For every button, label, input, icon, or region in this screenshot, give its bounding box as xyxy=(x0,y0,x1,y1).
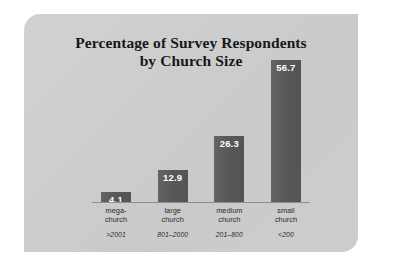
category-range-medium-church: 201–800 xyxy=(205,231,253,239)
category-name-line-1-large-church: large xyxy=(149,206,197,215)
bar-slot-mega-church: 4.1 xyxy=(92,54,140,202)
category-name-line-2-small-church: church xyxy=(262,215,310,224)
figure-card: Percentage of Survey Respondents by Chur… xyxy=(24,14,358,252)
category-name-line-1-small-church: small xyxy=(262,206,310,215)
category-range-large-church: 801–2000 xyxy=(149,231,197,239)
category-name-line-1-medium-church: medium xyxy=(205,206,253,215)
bar-value-small-church: 56.7 xyxy=(276,60,295,73)
bar-value-large-church: 12.9 xyxy=(163,170,182,183)
bar-slot-medium-church: 26.3 xyxy=(205,54,253,202)
category-label-small-church: small church <200 xyxy=(262,206,310,239)
category-label-mega-church: mega- church >2001 xyxy=(92,206,140,239)
category-label-large-church: large church 801–2000 xyxy=(149,206,197,239)
bar-series: 4.1 12.9 26.3 56.7 xyxy=(92,54,310,202)
category-range-mega-church: >2001 xyxy=(92,231,140,239)
category-label-medium-church: medium church 201–800 xyxy=(205,206,253,239)
bar-value-medium-church: 26.3 xyxy=(220,136,239,149)
category-name-line-2-large-church: church xyxy=(149,215,197,224)
bar-small-church[interactable]: 56.7 xyxy=(271,60,301,202)
category-name-line-1-mega-church: mega- xyxy=(92,206,140,215)
bar-slot-small-church: 56.7 xyxy=(262,54,310,202)
category-name-line-2-medium-church: church xyxy=(205,215,253,224)
bar-value-mega-church: 4.1 xyxy=(109,192,123,205)
bar-mega-church[interactable]: 4.1 xyxy=(101,192,131,202)
plot-area: 4.1 12.9 26.3 56.7 me xyxy=(24,14,358,252)
axis-baseline xyxy=(92,202,310,203)
category-axis-labels: mega- church >2001 large church 801–2000… xyxy=(92,206,310,239)
bar-medium-church[interactable]: 26.3 xyxy=(214,136,244,202)
category-name-line-2-mega-church: church xyxy=(92,215,140,224)
category-range-small-church: <200 xyxy=(262,231,310,239)
bar-large-church[interactable]: 12.9 xyxy=(158,170,188,202)
bar-slot-large-church: 12.9 xyxy=(149,54,197,202)
